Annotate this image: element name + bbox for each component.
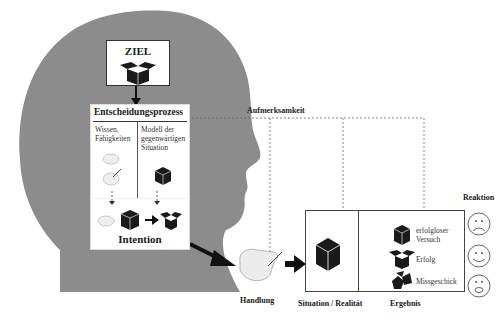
decision-box: Entscheidungsprozess Wissen, Fähigkeiten… <box>90 104 190 250</box>
intention-hand-icon <box>98 216 114 226</box>
open-box-icon <box>107 41 169 85</box>
hand-icon <box>103 154 119 164</box>
result-label: Ergebnis <box>390 299 421 308</box>
broken-box-icon <box>392 271 412 289</box>
attention-label: Aufmerksamkeit <box>247 106 305 115</box>
goal-box: ZIEL <box>106 40 170 86</box>
success-open-box-icon <box>389 250 415 269</box>
outcome-success-label: Erfolg <box>416 255 435 264</box>
reaction-label: Reaktion <box>463 193 494 202</box>
intention-closed-box-icon <box>121 210 139 230</box>
situation-closed-box-icon <box>316 238 340 271</box>
intention-open-box-icon <box>160 212 182 230</box>
hand-with-pen-icon <box>103 173 119 185</box>
outcome-mishap-label: Missgeschick <box>416 277 457 286</box>
arrow-right-icon <box>152 215 159 225</box>
situation-label: Situation / Realität <box>298 299 362 308</box>
failed-attempt-box-icon <box>394 225 410 245</box>
situation-box: erfolgloser Versuch Erfolg Missgeschick <box>305 210 465 292</box>
closed-box-icon <box>155 167 171 185</box>
intention-label: Intention <box>91 233 189 245</box>
outcome-failed-label: erfolgloser Versuch <box>416 226 449 244</box>
action-label: Handlung <box>240 296 274 305</box>
